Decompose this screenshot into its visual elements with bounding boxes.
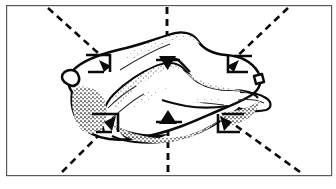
anatomical-figure [0, 0, 336, 189]
figure-root [0, 0, 336, 189]
